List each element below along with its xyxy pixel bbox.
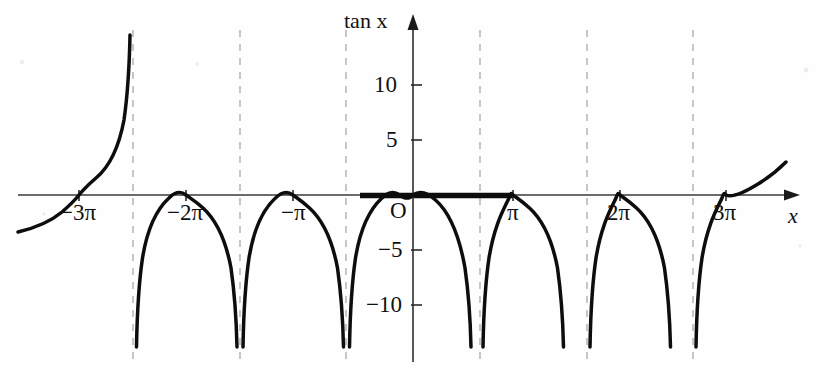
x-tick-label-pos-3pi: 3π (713, 200, 736, 226)
noise-speck (804, 68, 809, 73)
tan-branch-pos-3pi (696, 162, 786, 347)
plot-canvas (0, 0, 830, 372)
x-tick-label-neg-pi: −π (281, 200, 306, 226)
y-tick-label-10: 10 (374, 72, 397, 98)
x-axis-title: x (788, 203, 798, 229)
scan-noise-group (20, 60, 809, 248)
y-tick-label-5: 5 (386, 127, 398, 153)
axes-group (18, 14, 800, 362)
noise-speck (42, 212, 45, 215)
noise-speck (798, 244, 801, 247)
y-axis-title: tan x (344, 8, 387, 34)
tan-branch-pos-2pi (590, 193, 671, 347)
noise-speck (20, 60, 24, 64)
x-tick-label-neg-2pi: −2π (167, 200, 203, 226)
x-tick-label-pos-pi: π (507, 200, 519, 226)
tangent-function-figure: −3π −2π −π π 2π 3π 10 5 −5 −10 tan x x O (0, 0, 830, 372)
noise-speck (195, 62, 199, 66)
y-axis-arrowhead (408, 14, 419, 30)
x-tick-label-pos-2pi: 2π (607, 200, 630, 226)
y-tick-label-neg-10: −10 (366, 292, 402, 318)
origin-label: O (390, 198, 407, 224)
tan-branch-pos-pi (483, 193, 564, 347)
y-tick-label-neg-5: −5 (378, 237, 402, 263)
x-axis-arrowhead (784, 190, 800, 201)
x-tick-label-neg-3pi: −3π (60, 200, 96, 226)
tan-branch-zero (350, 192, 472, 347)
